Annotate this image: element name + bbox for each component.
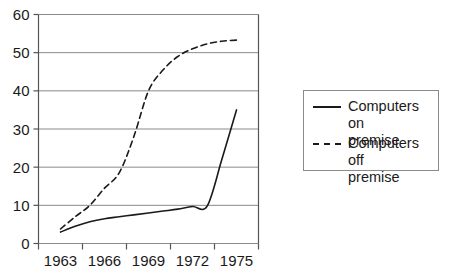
legend-item-label: Computers off premise [348, 135, 438, 186]
tick-marks [34, 15, 259, 250]
x-tick-label: 1966 [88, 252, 121, 269]
y-tick-label: 0 [21, 235, 29, 252]
x-axis-tick-labels: 19631966196919721975 [44, 252, 253, 269]
y-axis-tick-labels: 0102030405060 [13, 6, 30, 252]
legend-dashed-line-icon [312, 135, 342, 152]
legend: Computers on premise Computers off premi… [303, 90, 439, 171]
series-line-1 [61, 110, 237, 232]
data-series [61, 40, 237, 232]
x-tick-label: 1975 [220, 252, 253, 269]
legend-item-computers-off-premise: Computers off premise [312, 135, 438, 186]
x-tick-label: 1963 [44, 252, 77, 269]
y-tick-label: 40 [13, 82, 30, 99]
y-tick-label: 50 [13, 44, 30, 61]
legend-solid-line-icon [312, 98, 342, 115]
x-tick-label: 1969 [132, 252, 165, 269]
x-tick-label: 1972 [176, 252, 209, 269]
y-tick-label: 60 [13, 6, 30, 23]
gridlines [39, 15, 259, 244]
figure: 0102030405060 19631966196919721975 Compu… [0, 0, 449, 277]
y-tick-label: 30 [13, 121, 30, 138]
y-tick-label: 20 [13, 159, 30, 176]
y-tick-label: 10 [13, 197, 30, 214]
